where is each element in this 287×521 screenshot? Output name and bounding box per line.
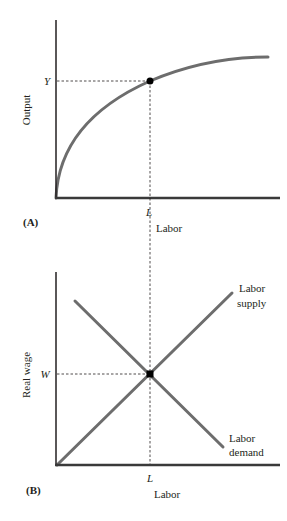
l-marker-label-a: L xyxy=(145,206,152,218)
labor-demand-label-1: Labor xyxy=(229,432,256,444)
x-axis-label-a: Labor xyxy=(156,222,183,234)
equilibrium-point-b xyxy=(147,371,154,378)
production-function-curve xyxy=(56,57,268,198)
labor-demand-label-2: demand xyxy=(229,446,264,458)
labor-supply-line xyxy=(57,293,232,465)
panel-a: Y L Labor (A) Output xyxy=(20,20,280,465)
panel-a-id: (A) xyxy=(23,216,39,229)
x-axis-label-b: Labor xyxy=(154,488,181,500)
diagram-canvas: Y L Labor (A) Output W L Labor (B) Real … xyxy=(0,0,287,521)
panel-b-id: (B) xyxy=(26,484,41,497)
y-marker-label: Y xyxy=(44,75,52,87)
equilibrium-point-a xyxy=(147,78,154,85)
y-axis-label-b: Real wage xyxy=(20,352,32,398)
labor-supply-label-1: Labor xyxy=(239,282,266,294)
w-marker-label: W xyxy=(40,368,50,380)
l-marker-label-b: L xyxy=(146,472,153,484)
y-axis-label-a: Output xyxy=(20,95,32,126)
labor-supply-label-2: supply xyxy=(237,297,267,309)
